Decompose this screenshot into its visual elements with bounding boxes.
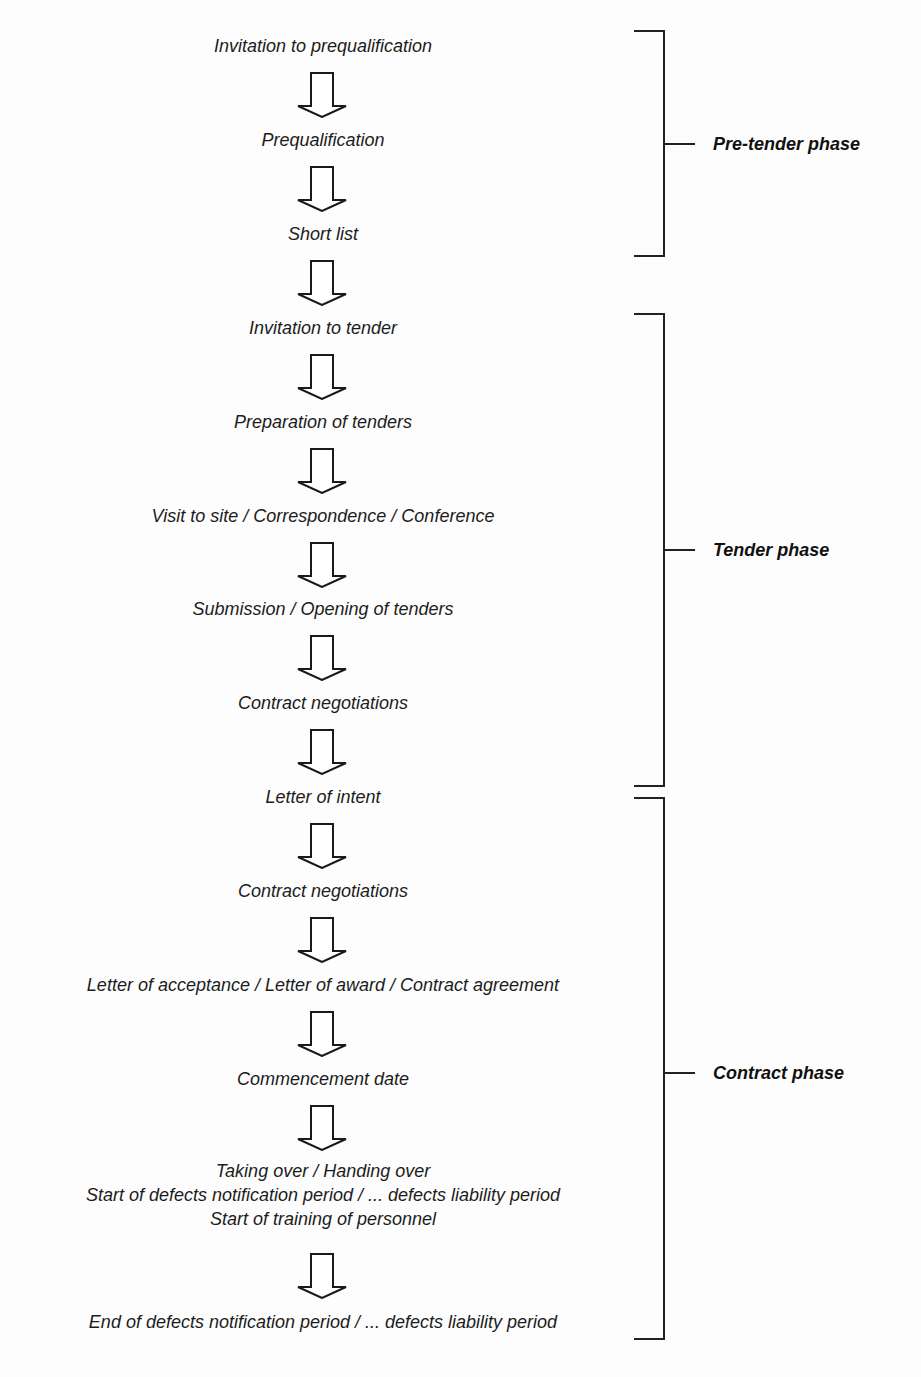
tender-phase-bracket [634,313,665,787]
step-prequalification: Prequalification [0,128,646,152]
step-visit-correspondence-conference: Visit to site / Correspondence / Confere… [0,504,646,528]
step-letter-of-acceptance-award-agreement: Letter of acceptance / Letter of award /… [0,973,646,997]
step-taking-over-handing-over: Taking over / Handing over Start of defe… [0,1159,646,1231]
down-arrow-icon [296,917,348,963]
down-arrow-icon [296,166,348,212]
down-arrow-icon [296,542,348,588]
step-commencement-date: Commencement date [0,1067,646,1091]
step-submission-opening-of-tenders: Submission / Opening of tenders [0,597,646,621]
contract-phase-connector [665,1072,695,1074]
step-invitation-to-prequalification: Invitation to prequalification [0,34,646,58]
tender-phase-label: Tender phase [713,539,829,561]
step-letter-of-intent: Letter of intent [0,785,646,809]
down-arrow-icon [296,729,348,775]
down-arrow-icon [296,448,348,494]
down-arrow-icon [296,1011,348,1057]
step-short-list: Short list [0,222,646,246]
contract-phase-bracket [634,797,665,1340]
step-end-of-defects-period: End of defects notification period / ...… [0,1310,646,1334]
down-arrow-icon [296,635,348,681]
step-invitation-to-tender: Invitation to tender [0,316,646,340]
pre-tender-phase-connector [665,143,695,145]
step-contract-negotiations-2: Contract negotiations [0,879,646,903]
down-arrow-icon [296,354,348,400]
tender-phase-connector [665,549,695,551]
step-line-taking-over: Taking over / Handing over [0,1159,646,1183]
step-line-start-training: Start of training of personnel [0,1207,646,1231]
contract-phase-label: Contract phase [713,1062,844,1084]
step-line-start-defects-period: Start of defects notification period / .… [0,1183,646,1207]
step-preparation-of-tenders: Preparation of tenders [0,410,646,434]
pre-tender-phase-label: Pre-tender phase [713,133,860,155]
pre-tender-phase-bracket [634,30,665,257]
step-contract-negotiations-1: Contract negotiations [0,691,646,715]
down-arrow-icon [296,72,348,118]
down-arrow-icon [296,823,348,869]
procurement-phase-diagram: Invitation to prequalification Prequalif… [0,0,921,1377]
down-arrow-icon [296,1105,348,1151]
down-arrow-icon [296,1253,348,1299]
down-arrow-icon [296,260,348,306]
